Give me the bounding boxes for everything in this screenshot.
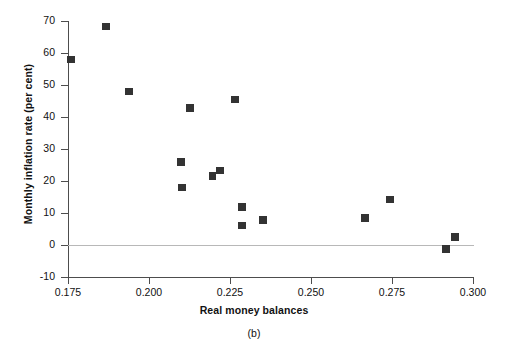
y-tick bbox=[61, 117, 68, 118]
figure-caption: (b) bbox=[0, 327, 508, 339]
y-tick-label: 30 bbox=[9, 142, 55, 154]
x-tick bbox=[149, 277, 150, 284]
x-tick bbox=[230, 277, 231, 284]
y-tick-label: 40 bbox=[9, 110, 55, 122]
y-tick-label: 50 bbox=[9, 78, 55, 90]
y-tick-label: 70 bbox=[9, 14, 55, 26]
x-axis-label: Real money balances bbox=[0, 304, 508, 316]
data-point bbox=[186, 104, 194, 112]
y-tick bbox=[61, 277, 68, 278]
data-point bbox=[67, 56, 75, 64]
y-tick-label: 0 bbox=[9, 238, 55, 250]
y-tick bbox=[61, 213, 68, 214]
x-tick bbox=[311, 277, 312, 284]
x-tick-label: 0.200 bbox=[119, 286, 179, 298]
data-point bbox=[125, 88, 133, 96]
data-point bbox=[442, 245, 450, 253]
data-point bbox=[231, 96, 239, 104]
x-axis-line bbox=[68, 277, 474, 278]
x-tick-label: 0.250 bbox=[281, 286, 341, 298]
data-point bbox=[259, 216, 267, 224]
zero-reference-line bbox=[68, 245, 474, 246]
y-tick bbox=[61, 245, 68, 246]
y-tick bbox=[61, 149, 68, 150]
y-tick bbox=[61, 53, 68, 54]
y-tick bbox=[61, 21, 68, 22]
data-point bbox=[361, 214, 369, 222]
y-tick-label: 10 bbox=[9, 206, 55, 218]
x-tick bbox=[68, 277, 69, 284]
x-tick-label: 0.225 bbox=[200, 286, 260, 298]
y-tick-label: 60 bbox=[9, 46, 55, 58]
x-tick-label: 0.300 bbox=[443, 286, 503, 298]
data-point bbox=[177, 158, 185, 166]
x-tick bbox=[392, 277, 393, 284]
y-tick-label: 20 bbox=[9, 174, 55, 186]
y-tick bbox=[61, 181, 68, 182]
x-tick-label: 0.175 bbox=[38, 286, 98, 298]
data-point bbox=[178, 184, 186, 192]
scatter-plot-figure: Monthly inflation rate (per cent) Real m… bbox=[0, 0, 508, 357]
data-point bbox=[216, 167, 224, 175]
data-point bbox=[209, 172, 217, 180]
y-tick-label: -10 bbox=[9, 270, 55, 282]
data-point bbox=[451, 233, 459, 241]
x-tick-label: 0.275 bbox=[362, 286, 422, 298]
data-point bbox=[238, 222, 246, 230]
y-tick bbox=[61, 85, 68, 86]
data-point bbox=[238, 203, 246, 211]
x-tick bbox=[473, 277, 474, 284]
data-point bbox=[386, 196, 394, 204]
data-point bbox=[102, 23, 110, 31]
